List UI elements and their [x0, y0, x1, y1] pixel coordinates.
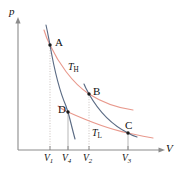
x-tick-label-v2: V2: [83, 154, 92, 164]
y-axis-label: p: [9, 6, 15, 17]
x-tick-label-v1: V1: [44, 154, 53, 164]
vertex-point-c: [126, 131, 129, 134]
x-tick-label-v1-subscript: 1: [50, 157, 53, 164]
isotherm-cold-curve: [58, 106, 153, 138]
vertex-point-a: [48, 43, 51, 46]
point-label-d: D: [58, 104, 66, 115]
y-axis-arrowhead: [15, 17, 20, 24]
isotherm-cold-label: TL: [92, 128, 102, 140]
point-label-b: B: [93, 86, 100, 97]
point-label-c: C: [125, 120, 132, 131]
isotherm-cold-label-subscript: L: [98, 132, 102, 140]
vertex-point-b: [87, 92, 90, 95]
x-tick-label-v4: V4: [62, 154, 71, 164]
x-axis-label: V: [166, 143, 173, 154]
x-axis-arrowhead: [159, 147, 166, 152]
x-tick-label-v3: V3: [122, 154, 131, 164]
x-tick-label-v2-subscript: 2: [89, 157, 92, 164]
isotherm-hot-label-subscript: H: [74, 66, 79, 74]
vertex-point-d: [66, 110, 69, 113]
x-tick-label-v3-subscript: 3: [128, 157, 131, 164]
isotherm-hot-label: TH: [68, 62, 79, 74]
carnot-cycle-figure: p V A B C D TH TL V1 V4 V2 V3: [0, 0, 176, 174]
carnot-diagram-svg: [0, 0, 176, 174]
x-tick-label-v4-subscript: 4: [68, 157, 71, 164]
point-label-a: A: [55, 37, 63, 48]
